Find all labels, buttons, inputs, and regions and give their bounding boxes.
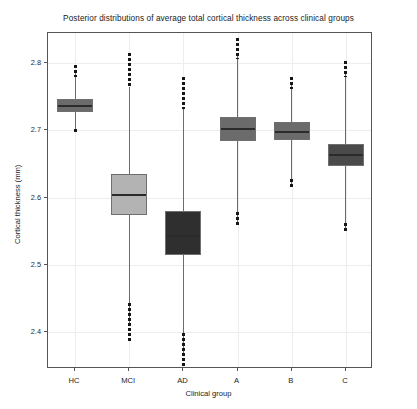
x-axis-tick-label-a: A <box>234 376 239 385</box>
outlier-cluster-upper <box>236 38 239 59</box>
y-axis-tick-label: 2.5 <box>0 259 41 268</box>
outlier-cluster-upper <box>182 77 185 109</box>
gridline-horizontal <box>48 265 371 266</box>
box-plot-c[interactable] <box>328 33 364 367</box>
median-line <box>112 194 146 196</box>
outlier-cluster-lower <box>182 333 185 367</box>
whisker-upper <box>345 72 346 144</box>
box-plot-hc[interactable] <box>57 33 93 367</box>
y-axis-tick-label: 2.7 <box>0 125 41 134</box>
x-axis-tick-label-mci: MCI <box>121 376 135 385</box>
gridline-horizontal <box>48 130 371 131</box>
y-axis-tick-mark <box>44 129 47 130</box>
whisker-lower <box>237 141 238 222</box>
whisker-lower <box>75 112 76 130</box>
outlier-cluster-upper <box>74 65 77 77</box>
median-line <box>221 128 255 130</box>
whisker-upper <box>129 87 130 174</box>
whisker-upper <box>237 55 238 118</box>
box-iqr <box>165 211 201 255</box>
box-plot-mci[interactable] <box>111 33 147 367</box>
whisker-lower <box>345 166 346 232</box>
chart-title: Posterior distributions of average total… <box>0 14 417 23</box>
plot-area <box>47 32 372 368</box>
whisker-upper <box>183 109 184 211</box>
box-plot-a[interactable] <box>220 33 256 367</box>
y-axis-label: Cortical thickness (mm) <box>13 165 22 244</box>
outlier-cluster-lower <box>344 223 347 233</box>
x-axis-tick-mark <box>237 368 238 371</box>
median-line <box>275 131 309 133</box>
box-plot-b[interactable] <box>274 33 310 367</box>
box-iqr <box>274 122 310 140</box>
x-axis-tick-label-b: B <box>288 376 293 385</box>
x-axis-tick-label-c: C <box>342 376 347 385</box>
y-axis-tick-label: 2.6 <box>0 192 41 201</box>
x-axis-tick-mark <box>345 368 346 371</box>
outlier-cluster-upper <box>290 77 293 88</box>
y-axis-tick-mark <box>44 331 47 332</box>
x-axis-tick-label-hc: HC <box>69 376 80 385</box>
median-line <box>329 154 363 156</box>
outlier-cluster-lower <box>290 179 293 188</box>
median-line <box>58 105 92 107</box>
gridline-horizontal <box>48 332 371 333</box>
box-iqr <box>220 117 256 141</box>
plot-inner <box>48 33 371 367</box>
x-axis-tick-label-ad: AD <box>177 376 188 385</box>
median-line <box>166 235 200 237</box>
box-iqr <box>111 174 147 214</box>
y-axis-tick-mark <box>44 264 47 265</box>
x-axis-label: Clinical group <box>0 389 417 398</box>
box-iqr <box>57 99 93 112</box>
chart-screenshot: Posterior distributions of average total… <box>0 0 417 409</box>
box-iqr <box>328 144 364 166</box>
outlier-cluster-lower <box>74 129 77 132</box>
outlier-cluster-upper <box>128 53 131 87</box>
y-axis-tick-mark <box>44 62 47 63</box>
x-axis-tick-mark <box>291 368 292 371</box>
y-axis-tick-label: 2.8 <box>0 58 41 67</box>
box-plot-ad[interactable] <box>165 33 201 367</box>
x-axis-tick-mark <box>182 368 183 371</box>
outlier-cluster-upper <box>344 61 347 77</box>
gridline-horizontal <box>48 63 371 64</box>
outlier-cluster-lower <box>128 303 131 341</box>
y-axis-tick-mark <box>44 197 47 198</box>
x-axis-tick-mark <box>74 368 75 371</box>
x-axis-tick-mark <box>128 368 129 371</box>
gridline-horizontal <box>48 198 371 199</box>
y-axis-tick-label: 2.4 <box>0 327 41 336</box>
outlier-cluster-lower <box>236 212 239 227</box>
whisker-upper <box>291 85 292 122</box>
